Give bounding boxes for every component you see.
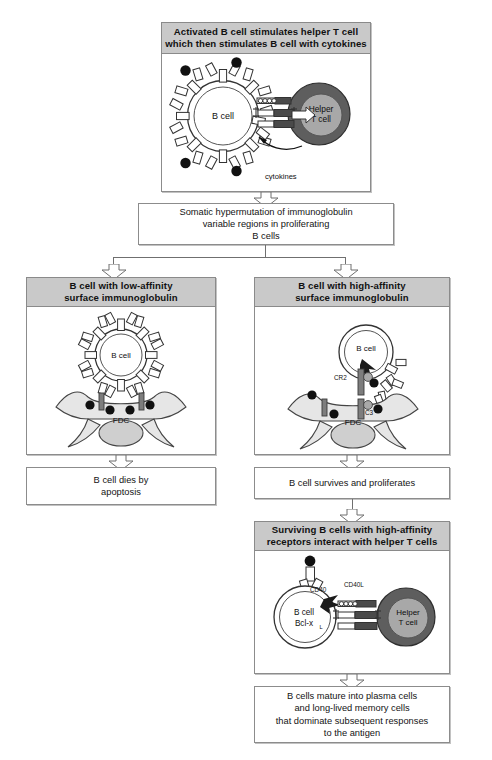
connector-outcome-to-stage4 [352, 499, 353, 509]
stage2-line3: B cells [252, 230, 279, 242]
right-branch-header: B cell with high-affinity surface immuno… [254, 277, 450, 307]
right-branch-panel: B cell with high-affinity surface immuno… [254, 277, 450, 455]
stage4-header-line1: Surviving B cells with high-affinity [272, 524, 432, 537]
cytokines-label: cytokines [265, 172, 297, 181]
stage5-line4: to the antigen [324, 727, 380, 739]
left-outcome-line2: apoptosis [101, 486, 141, 498]
left-outcome-line1: B cell dies by [94, 474, 149, 486]
connector-split-stem [265, 245, 266, 257]
left-branch-header-line1: B cell with low-affinity [69, 280, 172, 293]
cd40-label: CD40 [310, 586, 326, 593]
svg-text:B cell: B cell [111, 351, 131, 360]
right-branch-header-line2: surface immunoglobulin [295, 292, 409, 305]
stage5-box: B cells mature into plasma cells and lon… [254, 686, 450, 743]
left-branch-art: B cell FDC [26, 307, 216, 455]
stage5-line3: that dominate subsequent responses [276, 715, 428, 727]
stage5-line2: and long-lived memory cells [294, 702, 409, 714]
stage4-cell-art: B cell Bcl-x L Helper T cell [254, 551, 450, 674]
left-outcome-box: B cell dies by apoptosis [26, 467, 216, 505]
left-branch-header-line2: surface immunoglobulin [64, 292, 178, 305]
right-outcome-box: B cell survives and proliferates [254, 467, 450, 499]
stage2-line2: variable regions in proliferating [203, 218, 330, 230]
stage1-header-line2: which then stimulates B cell with cytoki… [165, 38, 367, 51]
svg-text:T cell: T cell [399, 618, 418, 627]
stage2-line1: Somatic hypermutation of immunoglobulin [179, 206, 352, 218]
left-branch-header: B cell with low-affinity surface immunog… [26, 277, 216, 307]
right-outcome-text: B cell survives and proliferates [289, 477, 415, 489]
stage4-header: Surviving B cells with high-affinity rec… [254, 521, 450, 551]
svg-text:Helper: Helper [396, 608, 420, 617]
connector-split-bar [113, 257, 345, 258]
stage4-header-line2: receptors interact with helper T cells [267, 536, 438, 549]
diagram-canvas: Activated B cell stimulates helper T cel… [0, 0, 492, 760]
right-branch-art: B cell FDC [254, 307, 450, 455]
svg-text:B cell: B cell [294, 608, 314, 617]
stage1-header-line1: Activated B cell stimulates helper T cel… [174, 26, 358, 39]
stage4-panel: Surviving B cells with high-affinity rec… [254, 521, 450, 674]
stage1-header: Activated B cell stimulates helper T cel… [161, 22, 371, 54]
svg-text:Bcl-x: Bcl-x [295, 619, 313, 628]
stage1-panel: Activated B cell stimulates helper T cel… [161, 22, 371, 192]
svg-text:B cell: B cell [212, 111, 234, 121]
svg-text:B cell: B cell [356, 344, 376, 353]
cr2-label: CR2 [334, 374, 347, 381]
cd40l-label: CD40L [344, 581, 364, 588]
left-branch-panel: B cell with low-affinity surface immunog… [26, 277, 216, 455]
svg-text:L: L [319, 624, 322, 630]
c3-label: C3 [365, 409, 373, 416]
svg-text:FDC: FDC [113, 416, 130, 425]
stage2-box: Somatic hypermutation of immunoglobulin … [138, 203, 394, 245]
right-branch-header-line1: B cell with high-affinity [298, 280, 406, 293]
stage5-line1: B cells mature into plasma cells [287, 690, 417, 702]
